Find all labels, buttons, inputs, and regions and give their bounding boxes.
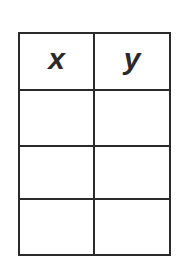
cell-x-2[interactable] [19,146,94,199]
header-y: y [94,33,170,90]
table-header-row: x y [19,33,170,90]
cell-x-1[interactable] [19,90,94,146]
cell-y-2[interactable] [94,146,170,199]
header-x: x [19,33,94,90]
header-x-label: x [48,42,65,75]
cell-x-3[interactable] [19,199,94,255]
table-row [19,199,170,255]
table-row [19,146,170,199]
table-row [19,90,170,146]
xy-value-table: x y [18,32,171,256]
cell-y-1[interactable] [94,90,170,146]
cell-y-3[interactable] [94,199,170,255]
header-y-label: y [124,42,141,75]
